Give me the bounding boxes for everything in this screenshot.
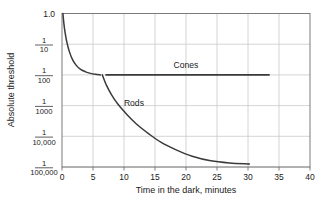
y-axis-title: Absolute threshold: [6, 53, 16, 128]
series-rods: [102, 75, 250, 164]
x-tick-label: 40: [305, 172, 315, 182]
y-tick-denominator: 100: [38, 76, 51, 85]
y-tick-denominator: 10: [40, 45, 48, 54]
chart-canvas: 1.0110110011000110,0001100,000 051015202…: [0, 0, 333, 204]
x-tick-label: 30: [243, 172, 253, 182]
x-tick-label: 0: [60, 172, 65, 182]
y-tick-numerator: 1: [42, 66, 46, 75]
y-tick-denominator: 1000: [36, 107, 53, 116]
y-tick-numerator: 1: [42, 159, 46, 168]
series-annotation-cones: Cones: [174, 60, 199, 70]
x-tick-label: 15: [150, 172, 160, 182]
x-tick-label: 20: [181, 172, 191, 182]
y-tick-numerator: 1: [42, 36, 46, 45]
y-axis-ticklabels: 1.0110110011000110,0001100,000: [30, 9, 57, 178]
series-annotation-rods: Rods: [124, 98, 144, 108]
dark-adaptation-chart: 1.0110110011000110,0001100,000 051015202…: [0, 0, 333, 204]
series-annotations: ConesRods: [124, 60, 199, 108]
x-tick-label: 25: [212, 172, 222, 182]
x-tick-label: 10: [119, 172, 129, 182]
y-tick-label: 1.0: [43, 9, 55, 19]
x-tick-label: 35: [274, 172, 284, 182]
x-tick-label: 5: [91, 172, 96, 182]
y-tick-denominator: 100,000: [30, 168, 57, 177]
grid-lines: [62, 14, 310, 168]
y-tick-numerator: 1: [42, 128, 46, 137]
y-tick-numerator: 1: [42, 97, 46, 106]
x-axis-ticklabels: 0510152025303540: [60, 167, 315, 182]
x-axis-title: Time in the dark, minutes: [136, 185, 237, 195]
y-tick-denominator: 10,000: [32, 138, 55, 147]
